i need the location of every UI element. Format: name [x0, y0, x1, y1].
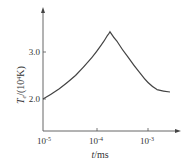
- y-axis-label: Te/(104K): [15, 66, 27, 104]
- y-axis-arrow-icon: [41, 7, 45, 13]
- y-tick-label-2: 2.0: [29, 94, 41, 104]
- te-vs-time-chart: 3.0 2.0 10-5 10-4 10-3 t/ms Te/(104K): [0, 0, 190, 163]
- x-tick-label-1e-5: 10-5: [37, 136, 51, 146]
- te-curve-line: [43, 32, 170, 99]
- x-axis-label: t/ms: [91, 149, 108, 160]
- x-axis-arrow-icon: [175, 129, 181, 133]
- x-tick-label-1e-4: 10-4: [89, 136, 103, 146]
- y-tick-label-3: 3.0: [29, 47, 41, 57]
- x-tick-label-1e-3: 10-3: [140, 136, 154, 146]
